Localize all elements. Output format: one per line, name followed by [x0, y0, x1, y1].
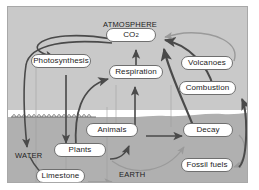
node-animals-label: Animals — [97, 126, 126, 134]
node-fossil-fuels-label: Fossil fuels — [186, 161, 227, 169]
carbon-cycle-diagram: ATMOSPHERE WATER EARTH CO2 Photosynthesi… — [0, 0, 259, 190]
node-fossil-fuels[interactable]: Fossil fuels — [181, 158, 233, 172]
earth-label: EARTH — [119, 171, 145, 179]
node-plants[interactable]: Plants — [54, 143, 106, 157]
diagram-frame: ATMOSPHERE WATER EARTH CO2 Photosynthesi… — [7, 6, 248, 183]
water-label: WATER — [15, 152, 42, 160]
node-photosynthesis-label: Photosynthesis — [33, 57, 89, 65]
node-decay-label: Decay — [196, 126, 219, 134]
node-volcanoes[interactable]: Volcanoes — [181, 56, 233, 70]
node-photosynthesis[interactable]: Photosynthesis — [31, 54, 91, 68]
node-co2-subscript: 2 — [135, 32, 138, 38]
node-respiration[interactable]: Respiration — [109, 65, 163, 79]
node-limestone[interactable]: Limestone — [36, 169, 85, 183]
node-respiration-label: Respiration — [115, 68, 157, 76]
water-surface-hatching — [11, 115, 96, 118]
node-co2[interactable]: CO2 — [106, 28, 156, 42]
node-animals[interactable]: Animals — [86, 123, 138, 137]
node-co2-label: CO — [123, 31, 135, 39]
node-decay[interactable]: Decay — [183, 123, 233, 137]
node-combustion[interactable]: Combustion — [179, 81, 236, 95]
node-volcanoes-label: Volcanoes — [188, 59, 226, 67]
node-plants-label: Plants — [69, 146, 92, 154]
node-limestone-label: Limestone — [42, 172, 80, 180]
node-combustion-label: Combustion — [186, 84, 230, 92]
